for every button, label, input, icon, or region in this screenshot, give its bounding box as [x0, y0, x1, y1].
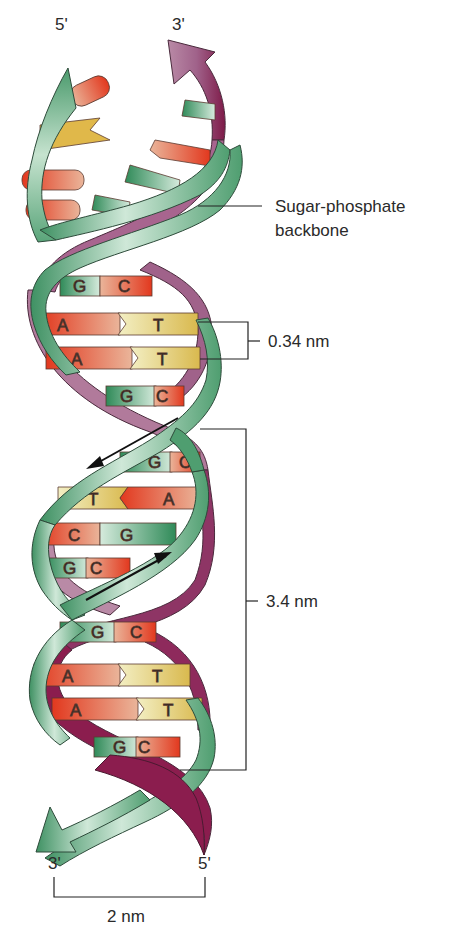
base-letter: C [118, 277, 130, 296]
dna-double-helix-diagram: G C A T A T G C G C [0, 0, 451, 945]
base-pair-7: C G [40, 523, 176, 545]
base-letter: G [73, 277, 86, 296]
base-letter: T [157, 350, 167, 369]
helix-turn-label: 3.4 nm [266, 592, 318, 611]
base-pair-10: A T [34, 664, 190, 686]
base-letter: A [163, 490, 175, 509]
purple-strand-arrowhead-icon [168, 40, 225, 140]
base-spacing-label: 0.34 nm [268, 332, 329, 351]
base-letter: T [153, 316, 163, 335]
strand-end-bottom-left: 3' [48, 854, 61, 873]
helix-width-label: 2 nm [107, 907, 145, 926]
base-letter: A [70, 701, 82, 720]
backbone-callout: Sugar-phosphate backbone [198, 197, 405, 240]
base-letter: A [62, 667, 74, 686]
base-letter: C [156, 387, 168, 406]
base-pair-8: G C [46, 558, 130, 578]
base-letter: G [113, 738, 126, 757]
base-letter: C [138, 738, 150, 757]
backbone-label-line1: Sugar-phosphate [275, 197, 405, 216]
base-letter: C [90, 559, 102, 578]
base-letter: G [91, 623, 104, 642]
base-pair-2: A T [40, 313, 198, 335]
base-pair-11: A T [52, 698, 202, 720]
base-letter: T [152, 667, 162, 686]
strand-end-top-right: 3' [172, 15, 185, 34]
base-pair-1: G C [60, 276, 152, 296]
base-letter: A [57, 316, 69, 335]
base-letter: C [68, 526, 80, 545]
base-letter: T [163, 701, 173, 720]
base-letter: G [63, 559, 76, 578]
base-letter: G [120, 387, 133, 406]
base-pair-12: G C [94, 737, 180, 757]
strand-end-bottom-right: 5' [198, 854, 211, 873]
strand-end-top-left: 5' [55, 15, 68, 34]
helix-width-bracket [54, 877, 205, 897]
base-letter: C [130, 623, 142, 642]
base-letter: G [120, 526, 133, 545]
base-pair-4: G C [106, 386, 184, 406]
arrow-down-left-icon [86, 456, 104, 469]
backbone-label-line2: backbone [275, 221, 349, 240]
